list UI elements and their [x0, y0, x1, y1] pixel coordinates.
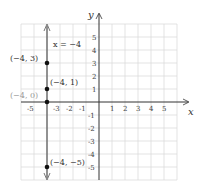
svg-text:3: 3	[136, 105, 140, 113]
svg-text:-1: -1	[79, 105, 86, 113]
svg-text:-2: -2	[66, 105, 73, 113]
svg-text:1: 1	[110, 105, 114, 113]
point-neg4-3	[45, 61, 50, 66]
point-neg4-neg5	[45, 165, 50, 170]
point-label-neg4-1: (−4, 1)	[50, 78, 78, 87]
svg-text:4: 4	[149, 105, 154, 113]
svg-text:-3: -3	[88, 138, 95, 146]
point-label-neg4-0: (−4, 0)	[10, 91, 38, 100]
x-axis-label: x	[188, 106, 194, 117]
svg-text:1: 1	[92, 86, 96, 94]
coordinate-graph: x y -5 -3 -2 -1 1 2 3 4 5 5 4 3 2 1 -1 -…	[0, 0, 203, 187]
svg-text:-3: -3	[53, 105, 60, 113]
x-tick-labels: -5 -3 -2 -1 1 2 3 4 5	[27, 105, 166, 113]
svg-text:2: 2	[92, 73, 96, 81]
svg-text:-2: -2	[88, 125, 95, 133]
svg-text:-4: -4	[88, 151, 95, 159]
y-axis	[96, 13, 102, 180]
point-neg4-0	[45, 100, 50, 105]
svg-text:-5: -5	[27, 105, 34, 113]
svg-text:5: 5	[92, 34, 96, 42]
y-tick-labels: 5 4 3 2 1 -1 -2 -3 -4 -5	[88, 34, 97, 172]
svg-text:-1: -1	[88, 112, 95, 120]
svg-text:4: 4	[92, 47, 97, 55]
point-label-neg4-3: (−4, 3)	[10, 54, 38, 63]
point-neg4-1	[45, 87, 50, 92]
line-equation-label: x = −4	[53, 40, 81, 49]
svg-text:5: 5	[162, 105, 166, 113]
y-axis-label: y	[87, 9, 94, 20]
svg-text:2: 2	[123, 105, 127, 113]
svg-text:3: 3	[92, 60, 96, 68]
svg-text:-5: -5	[88, 164, 95, 172]
point-label-neg4-neg5: (−4, −5)	[50, 158, 85, 167]
